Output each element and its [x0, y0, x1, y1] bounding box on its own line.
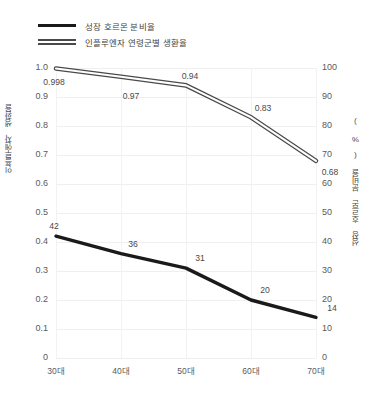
data-point-label: 20 [260, 285, 270, 295]
data-point-label: 0.83 [255, 103, 272, 113]
series-line-influenza-survival-inner [56, 69, 316, 161]
chart-root: 성장 호르몬 분비율 인플루엔자 연령군별 생환율 인플루엔자 생환율 성장 호… [0, 0, 372, 404]
data-point-label: 36 [128, 239, 138, 249]
series-line-influenza-survival-outer [56, 69, 316, 161]
data-point-label: 31 [195, 253, 205, 263]
data-point-label: 0.94 [182, 71, 199, 81]
data-point-label: 14 [327, 303, 337, 313]
data-point-label: 0.998 [43, 77, 65, 87]
data-point-label: 0.68 [322, 167, 339, 177]
series-line-growth-hormone [56, 236, 316, 317]
series-layer: 0.9980.970.940.830.684236312014 [0, 0, 372, 404]
data-point-label: 42 [49, 221, 59, 231]
data-point-label: 0.97 [123, 91, 140, 101]
